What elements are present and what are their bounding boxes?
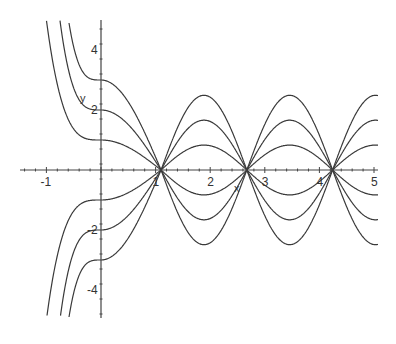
curve-c-2 xyxy=(60,21,378,220)
curve-c-3 xyxy=(69,23,378,245)
curve-c--3 xyxy=(69,95,378,317)
y-tick-label: 2 xyxy=(91,103,98,117)
x-tick-label: 1 xyxy=(153,175,160,189)
y-axis-label: y xyxy=(80,92,86,104)
x-tick-label: 4 xyxy=(316,175,323,189)
x-tick-label: 2 xyxy=(207,175,214,189)
chart-plot: -11234542-2-4 y x xyxy=(0,0,396,344)
axis-ticks xyxy=(25,29,374,314)
x-axis-label: x xyxy=(234,182,240,194)
y-tick-label: 4 xyxy=(91,43,98,57)
x-tick-label: -1 xyxy=(40,175,51,189)
x-tick-label: 3 xyxy=(262,175,269,189)
y-tick-label: -2 xyxy=(87,223,98,237)
x-tick-label: 5 xyxy=(371,175,378,189)
y-tick-label: -4 xyxy=(87,283,98,297)
solution-curves xyxy=(47,21,379,317)
